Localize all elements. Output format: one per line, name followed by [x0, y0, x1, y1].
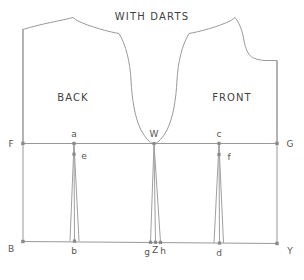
marker-point-h: [159, 241, 162, 244]
point-label-Y: Y: [286, 246, 293, 256]
marker-point-g: [149, 241, 152, 244]
point-label-B: B: [8, 244, 14, 254]
back-bodice-outline: [23, 18, 153, 144]
point-label-W: W: [150, 129, 159, 139]
marker-point-a: [72, 142, 75, 145]
point-label-d: d: [216, 248, 222, 258]
marker-point-e: [72, 153, 75, 156]
marker-point-f: [217, 153, 220, 156]
back-dart-center-line: [74, 144, 75, 242]
point-label-a: a: [71, 129, 77, 139]
point-label-e: e: [81, 151, 87, 161]
marker-point-F: [21, 142, 24, 145]
point-label-b: b: [71, 246, 77, 256]
region-label-front: FRONT: [212, 92, 252, 103]
front-dart-center-line: [219, 144, 220, 244]
point-label-G: G: [287, 139, 294, 149]
center-dart-left-leg: [151, 144, 155, 243]
marker-point-b: [73, 240, 76, 243]
marker-point-d: [218, 242, 221, 245]
front-bodice-outline: [156, 18, 278, 144]
marker-point-c: [217, 142, 220, 145]
point-label-c: c: [217, 129, 222, 139]
point-label-g: g: [144, 247, 150, 257]
point-label-F: F: [8, 139, 13, 149]
point-label-Z: Z: [152, 245, 158, 255]
region-label-back: BACK: [57, 92, 88, 103]
marker-point-B: [21, 240, 24, 243]
marker-point-Y: [275, 242, 278, 245]
diagram-title: WITH DARTS: [115, 11, 190, 22]
point-label-f: f: [227, 152, 231, 162]
point-label-h: h: [160, 246, 166, 256]
front-dart-left-leg: [214, 144, 219, 244]
pattern-drawing-canvas: WITH DARTS BACK FRONT F G B Y a e b W g …: [0, 0, 304, 280]
marker-point-G: [275, 142, 278, 145]
marker-point-W: [152, 142, 155, 145]
pattern-diagram: WITH DARTS BACK FRONT F G B Y a e b W g …: [0, 0, 304, 280]
back-dart-left-leg: [70, 144, 74, 241]
marker-point-Z: [154, 241, 157, 244]
